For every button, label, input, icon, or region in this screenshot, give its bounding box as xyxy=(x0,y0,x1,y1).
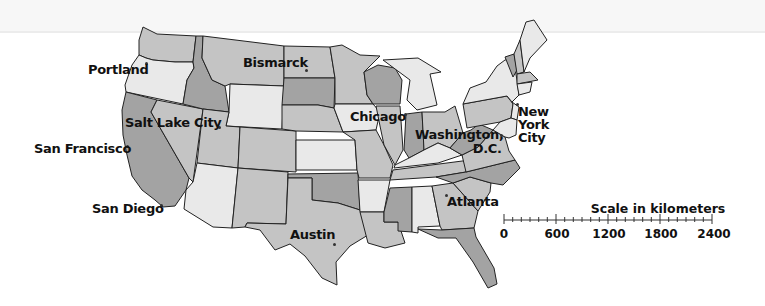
scale-tick-1800: 1800 xyxy=(644,227,677,241)
city-label-atlanta: Atlanta xyxy=(447,195,499,209)
city-label-austin: Austin xyxy=(290,228,335,242)
state-connecticut-ri xyxy=(517,82,532,95)
city-label-portland: Portland xyxy=(88,63,148,77)
state-wisconsin xyxy=(364,65,402,104)
scale-tick-0: 0 xyxy=(500,227,508,241)
city-label-chicago: Chicago xyxy=(350,110,406,124)
scale-tick-1200: 1200 xyxy=(592,227,625,241)
scale-tick-2400: 2400 xyxy=(697,227,730,241)
city-label-washington: Washington,D.C. xyxy=(415,128,504,156)
state-florida xyxy=(418,228,497,288)
state-maine xyxy=(520,20,547,72)
state-new-mexico xyxy=(232,168,288,228)
state-wyoming xyxy=(226,84,284,129)
state-nebraska xyxy=(282,105,343,132)
city-label-new-york-city: NewYorkCity xyxy=(518,105,549,144)
state-kansas xyxy=(296,140,357,170)
city-label-bismarck: Bismarck xyxy=(243,56,308,70)
city-label-san-francisco: San Francisco xyxy=(34,142,131,156)
scale-tick-600: 600 xyxy=(544,227,569,241)
city-label-salt-lake-city: Salt Lake City xyxy=(125,116,222,130)
state-colorado xyxy=(238,127,296,172)
city-dot-austin xyxy=(333,243,336,246)
state-south-dakota xyxy=(282,78,335,108)
city-label-san-diego: San Diego xyxy=(92,202,164,216)
state-washington xyxy=(139,27,196,62)
